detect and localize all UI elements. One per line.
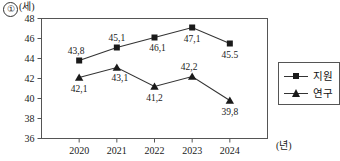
triangle-marker-icon (226, 97, 234, 104)
y-tick-label: 38 (25, 113, 35, 124)
triangle-marker-icon (113, 64, 121, 71)
legend-label: 지원 (313, 70, 333, 82)
x-tick-label: 2020 (69, 145, 89, 156)
x-tick-label: 2021 (107, 145, 127, 156)
data-point-label: 39,8 (222, 107, 239, 117)
x-tick-label: 2023 (182, 145, 202, 156)
data-point-label: 43,1 (112, 73, 129, 83)
square-marker-icon (152, 35, 158, 41)
data-label-layer: 43,845,146,147,145.542,143,141,242,239,8 (68, 33, 239, 117)
chart-legend: 지원 연구 (278, 62, 340, 105)
x-tick-label: 2022 (145, 145, 165, 156)
y-axis-ticks: 36384042444648 (25, 13, 42, 144)
data-point-label: 45,1 (109, 33, 126, 43)
square-marker-icon (227, 41, 233, 47)
data-point-label: 45.5 (222, 50, 239, 60)
legend-item-support: 지원 (284, 69, 333, 83)
triangle-marker-icon (284, 88, 308, 98)
legend-item-research: 연구 (284, 86, 333, 100)
y-tick-label: 44 (25, 53, 35, 64)
y-tick-label: 36 (25, 133, 35, 144)
square-marker-icon (114, 45, 120, 51)
legend-label: 연구 (313, 87, 333, 99)
square-marker-icon (189, 25, 195, 31)
data-point-label: 47,1 (184, 34, 201, 44)
data-point-label: 42,1 (71, 84, 88, 94)
data-point-label: 43,8 (68, 46, 85, 56)
square-marker-icon (76, 58, 82, 64)
data-point-label: 46,1 (149, 43, 166, 53)
x-tick-label: 2024 (220, 145, 240, 156)
y-tick-label: 40 (25, 93, 35, 104)
data-point-label: 41,2 (146, 93, 163, 103)
y-tick-label: 42 (25, 73, 35, 84)
triangle-marker-icon (188, 73, 196, 80)
square-marker-icon (284, 71, 308, 81)
x-axis-ticks: 20202021202220232024 (69, 139, 240, 156)
y-tick-label: 46 (25, 33, 35, 44)
y-tick-label: 48 (25, 13, 35, 24)
data-point-label: 42,2 (181, 62, 198, 72)
